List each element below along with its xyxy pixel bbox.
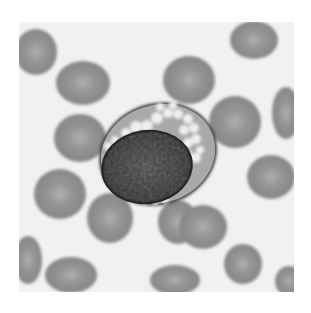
red-blood-cell: [54, 114, 106, 162]
micrograph: [0, 0, 311, 313]
red-blood-cell: [45, 257, 97, 293]
red-blood-cell: [150, 265, 200, 295]
red-blood-cell: [209, 96, 261, 148]
red-blood-cell: [224, 244, 262, 284]
red-blood-cell: [56, 61, 110, 105]
red-blood-cell: [272, 87, 300, 139]
red-blood-cell: [34, 169, 86, 219]
red-blood-cell: [163, 56, 215, 104]
red-blood-cell: [230, 21, 278, 59]
red-blood-cell: [15, 29, 57, 75]
red-blood-cell: [275, 266, 303, 296]
micrograph-field: [14, 21, 303, 296]
image-frame: [0, 0, 311, 313]
red-blood-cell: [14, 236, 42, 284]
red-blood-cell: [247, 155, 295, 199]
red-blood-cell: [179, 205, 227, 249]
